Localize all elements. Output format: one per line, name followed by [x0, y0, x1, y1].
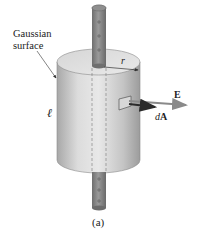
- figure-caption: (a): [92, 217, 104, 228]
- gaussian-label-line1: Gaussian: [13, 28, 52, 40]
- gaussian-surface-pointer: [37, 51, 56, 78]
- radius-label: r: [121, 56, 125, 66]
- length-label: ℓ: [47, 107, 52, 119]
- electric-field-label: E: [174, 90, 181, 100]
- area-element-A: A: [160, 111, 167, 122]
- area-element-label: dA: [155, 112, 167, 122]
- gaussian-label-line2: surface: [13, 40, 52, 52]
- gaussian-surface-label: Gaussian surface: [13, 28, 52, 52]
